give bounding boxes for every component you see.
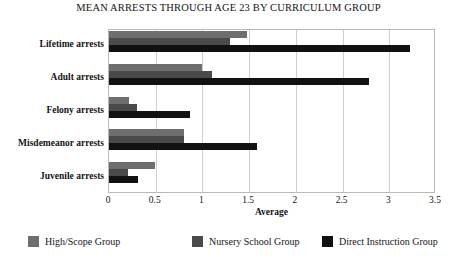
bar	[109, 129, 184, 136]
bar-group	[109, 128, 434, 161]
x-axis-tick-label: 2	[292, 195, 297, 205]
bar-group	[109, 30, 434, 63]
bar	[109, 64, 202, 71]
legend-item[interactable]: Direct Instruction Group	[322, 236, 438, 247]
bar	[109, 97, 129, 104]
chart-legend: High/Scope GroupNursery School GroupDire…	[0, 236, 457, 254]
x-axis-tick-label: 1.5	[242, 195, 254, 205]
legend-swatch-icon	[28, 236, 39, 247]
legend-swatch-icon	[192, 236, 203, 247]
bar-group	[109, 96, 434, 129]
y-axis-labels: Lifetime arrestsAdult arrestsFelony arre…	[0, 29, 104, 193]
y-axis-tick-label: Lifetime arrests	[0, 39, 104, 49]
legend-item[interactable]: High/Scope Group	[28, 236, 120, 247]
bar	[109, 78, 369, 85]
bar	[109, 111, 190, 118]
legend-label: Nursery School Group	[209, 236, 300, 247]
y-axis-tick-label: Juvenile arrests	[0, 171, 104, 181]
x-axis-tick-label: 0.5	[149, 195, 161, 205]
legend-label: Direct Instruction Group	[339, 236, 438, 247]
bar	[109, 45, 410, 52]
bar-group	[109, 161, 434, 194]
bar	[109, 71, 212, 78]
bar	[109, 143, 257, 150]
bar	[109, 136, 184, 143]
plot-area	[108, 29, 435, 193]
x-axis-tick-label: 0	[106, 195, 111, 205]
bar-group	[109, 63, 434, 96]
bar	[109, 38, 230, 45]
y-axis-tick-label: Misdemeanor arrests	[0, 138, 104, 148]
x-axis-tick-label: 1	[199, 195, 204, 205]
bar	[109, 31, 247, 38]
bar	[109, 104, 137, 111]
chart-container: MEAN ARRESTS THROUGH AGE 23 BY CURRICULU…	[0, 0, 457, 258]
x-axis-tick-label: 3.5	[429, 195, 441, 205]
x-axis-tick-label: 2.5	[336, 195, 348, 205]
legend-swatch-icon	[322, 236, 333, 247]
y-axis-tick-label: Felony arrests	[0, 105, 104, 115]
x-axis-tick-label: 3	[386, 195, 391, 205]
y-axis-tick-label: Adult arrests	[0, 72, 104, 82]
chart-title: MEAN ARRESTS THROUGH AGE 23 BY CURRICULU…	[0, 2, 457, 13]
legend-label: High/Scope Group	[45, 236, 120, 247]
x-axis-title: Average	[108, 207, 435, 217]
bar	[109, 162, 155, 169]
bars-layer	[109, 30, 434, 192]
bar	[109, 176, 138, 183]
legend-item[interactable]: Nursery School Group	[192, 236, 300, 247]
bar	[109, 169, 128, 176]
